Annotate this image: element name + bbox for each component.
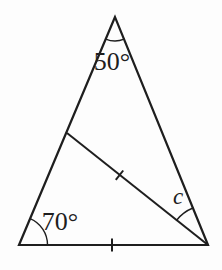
apex-angle-label: 50°	[94, 47, 130, 76]
cevian-line	[67, 133, 208, 245]
apex-angle-arc	[106, 39, 124, 41]
c-angle-arc	[177, 208, 193, 220]
triangle-diagram: 50° 70° c	[0, 0, 222, 270]
geometry-figure: 50° 70° c	[0, 0, 222, 270]
unknown-angle-label: c	[173, 184, 183, 209]
left-base-angle-label: 70°	[42, 207, 78, 236]
